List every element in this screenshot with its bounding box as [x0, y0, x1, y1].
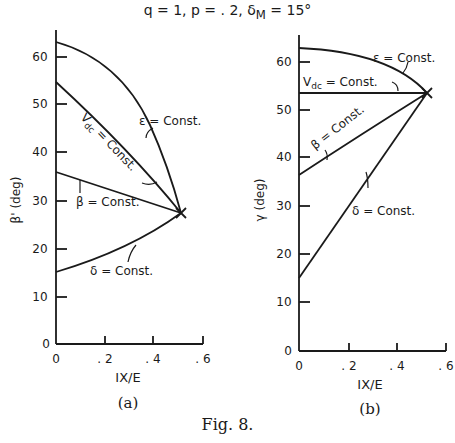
svg-text:10: 10 — [32, 290, 47, 304]
label-beta-b: β = Const. — [308, 102, 367, 152]
svg-text:30: 30 — [32, 194, 47, 208]
y-axis-label-b: γ (deg) — [253, 179, 267, 222]
svg-text:0: 0 — [284, 344, 292, 358]
leader-delta-a — [128, 245, 136, 262]
svg-text:40: 40 — [276, 150, 291, 164]
convergence-marker-a — [176, 208, 186, 218]
svg-text:0: 0 — [295, 359, 303, 373]
label-epsilon-b: ε = Const. — [373, 51, 435, 65]
label-delta-b: δ = Const. — [352, 204, 415, 218]
panel-label-a: (a) — [118, 394, 139, 412]
svg-text:40: 40 — [32, 145, 47, 159]
svg-text:60: 60 — [276, 55, 291, 69]
x-axis-label-a: IX/E — [115, 370, 140, 385]
label-delta-a: δ = Const. — [90, 264, 153, 278]
svg-text:50: 50 — [276, 103, 291, 117]
svg-text:. 2: . 2 — [97, 352, 112, 366]
svg-text:. 6: . 6 — [195, 352, 210, 366]
curve-delta-b — [299, 93, 427, 278]
x-ticks-a — [105, 336, 203, 344]
chart-panel-a — [56, 30, 203, 344]
svg-text:. 4: . 4 — [145, 352, 160, 366]
figure-caption: Fig. 8. — [0, 415, 455, 434]
y-ticks-a — [56, 57, 67, 297]
label-epsilon-a: ε = Const. — [139, 114, 201, 128]
svg-text:. 4: . 4 — [389, 359, 404, 373]
svg-text:. 2: . 2 — [341, 359, 356, 373]
label-vdc-b: Vdc = Const. — [303, 75, 378, 91]
svg-text:30: 30 — [276, 199, 291, 213]
svg-text:60: 60 — [32, 50, 47, 64]
svg-text:20: 20 — [32, 242, 47, 256]
svg-text:20: 20 — [276, 247, 291, 261]
figure-canvas: 60 50 40 30 20 10 0 0 . 2 . 4 . 6 IX/E β… — [0, 0, 455, 443]
label-vdc-a: Vdc = Const. — [76, 110, 139, 175]
svg-text:10: 10 — [276, 295, 291, 309]
label-beta-a: β = Const. — [76, 195, 139, 209]
svg-text:. 6: . 6 — [438, 359, 453, 373]
svg-text:0: 0 — [42, 337, 50, 351]
svg-text:50: 50 — [32, 97, 47, 111]
x-axis-label-b: IX/E — [357, 377, 382, 392]
x-ticks-b — [349, 343, 446, 351]
leader-vdc-b — [392, 82, 398, 91]
y-axis-label-a: β' (deg) — [9, 177, 23, 224]
svg-text:0: 0 — [52, 352, 60, 366]
